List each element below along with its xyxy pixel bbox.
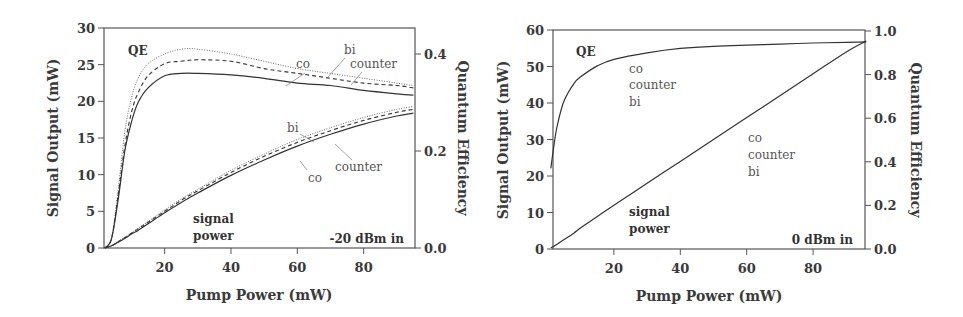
series-line	[105, 49, 414, 248]
signal-counter-pointer	[335, 144, 352, 160]
x-axis-ticks: 20406080	[156, 248, 373, 275]
y-tick-label: 0	[535, 242, 544, 257]
y-right-tick-label: 0.2	[874, 198, 897, 213]
y-tick-label: 20	[77, 94, 95, 109]
x-tick-label: 20	[605, 261, 623, 276]
input-power-annotation: 0 dBm in	[792, 233, 853, 247]
signal-power-label-line2: power	[193, 229, 234, 243]
series-group	[105, 49, 414, 248]
y-right-tick-label: 0.8	[874, 68, 897, 83]
x-axis-title: Pump Power (mW)	[186, 287, 333, 303]
y-right-tick-label: 0.4	[424, 47, 447, 62]
y-right-tick-label: 0.4	[874, 155, 897, 170]
y-axis-title-left: Signal Output (mW)	[495, 61, 511, 220]
y-right-tick-label: 0.0	[874, 242, 897, 257]
series-line	[551, 42, 866, 168]
qe-counter-label: counter	[350, 57, 397, 71]
signal-co-label: co	[308, 171, 322, 185]
qe-co-label: co	[629, 62, 643, 76]
signal-bi-label: bi	[287, 121, 299, 135]
y-tick-label: 40	[526, 96, 544, 111]
x-axis-ticks: 20406080	[605, 249, 822, 276]
y-axis-title-right: Quantum Efficiency	[455, 60, 471, 216]
figure-canvas: 051015202530 0.00.20.4 20406080 QE co bi…	[0, 0, 963, 317]
y-axis-title-right: Quantum Efficiency	[908, 62, 924, 218]
y-tick-label: 5	[86, 204, 95, 219]
signal-co-label: co	[748, 131, 762, 145]
x-tick-label: 40	[222, 260, 240, 275]
qe-counter-label: counter	[629, 78, 676, 92]
signal-co-pointer	[300, 161, 307, 170]
y-tick-label: 30	[77, 21, 95, 36]
y-tick-label: 10	[526, 206, 544, 221]
x-tick-label: 80	[355, 260, 373, 275]
y-axis-right-ticks: 0.00.20.4	[415, 47, 447, 256]
series-line	[105, 109, 414, 248]
series-line	[105, 60, 414, 248]
x-tick-label: 40	[671, 261, 689, 276]
y-tick-label: 60	[526, 23, 544, 38]
qe-co-label: co	[296, 57, 310, 71]
signal-power-label-line2: power	[629, 222, 670, 236]
y-tick-label: 50	[526, 60, 544, 75]
x-tick-label: 60	[738, 261, 756, 276]
qe-bi-label: bi	[629, 95, 641, 109]
y-right-tick-label: 1.0	[874, 24, 897, 39]
x-tick-label: 80	[804, 261, 822, 276]
input-power-annotation: -20 dBm in	[329, 232, 404, 246]
y-axis-left-ticks: 0102030405060	[526, 23, 553, 257]
series-line	[105, 113, 414, 248]
qe-bi-label: bi	[344, 43, 356, 57]
chart-right-0dbm: 0102030405060 0.00.20.40.60.81.0 2040608…	[495, 23, 924, 304]
qe-label: QE	[576, 45, 596, 59]
y-tick-label: 0	[86, 241, 95, 256]
x-tick-label: 60	[288, 260, 306, 275]
series-line	[551, 41, 866, 248]
y-axis-title-left: Signal Output (mW)	[45, 59, 61, 218]
y-right-tick-label: 0.6	[874, 111, 897, 126]
y-right-tick-label: 0.0	[424, 241, 447, 256]
y-tick-label: 30	[526, 133, 544, 148]
signal-bi-label: bi	[748, 165, 760, 179]
qe-counter-pointer	[351, 72, 362, 85]
y-axis-left-ticks: 051015202530	[77, 21, 104, 256]
x-axis-title: Pump Power (mW)	[636, 288, 783, 304]
signal-counter-label: counter	[748, 148, 795, 162]
signal-power-label-line1: signal	[629, 205, 670, 219]
y-right-tick-label: 0.2	[424, 144, 447, 159]
y-tick-label: 15	[77, 131, 95, 146]
series-line	[105, 107, 414, 249]
plot-frame-right	[553, 30, 865, 249]
y-tick-label: 20	[526, 169, 544, 184]
y-tick-label: 25	[77, 58, 95, 73]
x-tick-label: 20	[156, 260, 174, 275]
signal-counter-label: counter	[335, 160, 382, 174]
y-tick-label: 10	[77, 168, 95, 183]
y-axis-right-ticks: 0.00.20.40.60.81.0	[865, 24, 897, 257]
qe-label: QE	[128, 44, 148, 58]
chart-left-minus20dbm: 051015202530 0.00.20.4 20406080 QE co bi…	[45, 21, 471, 303]
signal-power-label-line1: signal	[193, 212, 234, 226]
series-group	[551, 41, 866, 248]
